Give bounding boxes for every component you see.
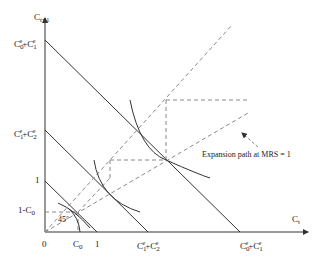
budget-line-3 — [45, 40, 240, 232]
expansion-path — [45, 113, 248, 232]
x-tick-one: 1 — [95, 240, 100, 249]
y-tick-c1e-c2e: C1e+C2e — [14, 128, 35, 141]
consumption-diagram — [0, 0, 321, 263]
y-tick-c0e-c1e: C0e+C1e — [14, 38, 35, 51]
staircase-lines — [45, 100, 248, 232]
y-axis-label: Ct+1 — [34, 13, 49, 24]
x-axis-label: Ct — [292, 215, 300, 226]
annotation-arrow — [242, 133, 258, 147]
angle-label: 45° — [58, 216, 69, 224]
x-tick-c1e-c2e: C1e+C2e — [137, 240, 158, 253]
origin-label: 0 — [42, 240, 47, 249]
y-tick-one-minus-c0: 1-C0 — [18, 206, 35, 217]
x-tick-c0: C0 — [73, 240, 83, 251]
x-tick-c0e-c1e: C0e+C1e — [240, 240, 261, 253]
y-tick-one: 1 — [35, 176, 40, 185]
expansion-path-annotation: Expansion path at MRS = 1 — [202, 151, 291, 159]
indifference-curve-3 — [130, 100, 210, 178]
